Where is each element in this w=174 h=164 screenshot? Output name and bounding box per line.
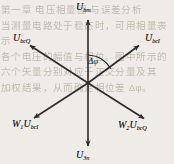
label-w1-u-bci: W1UbcI bbox=[12, 119, 38, 130]
vector-w1-u-bci bbox=[34, 83, 88, 118]
label-u-3n: U3n bbox=[76, 150, 89, 161]
label-u-bm-subscript: bm bbox=[83, 6, 90, 13]
label-delta-phi: Δφ bbox=[88, 57, 98, 66]
label-u-3n-subscript: 3n bbox=[83, 154, 89, 161]
vector-w2-u-bcq bbox=[88, 83, 144, 119]
label-u-bcq: UbcQ bbox=[13, 33, 30, 44]
label-u-bci: UbcI bbox=[145, 33, 160, 44]
label-w1-u-subscript: bcI bbox=[31, 123, 39, 130]
label-w1-u-symbol: U bbox=[23, 118, 30, 129]
vector-lines-svg bbox=[0, 0, 174, 164]
label-u-bm: Ubm bbox=[76, 2, 91, 13]
phasor-diagram-figure: 第一章 电压相量图 与误差分析 当测量电路处于稳态时，可用相量表示 各个电压的幅… bbox=[0, 0, 174, 164]
vector-u-bcq bbox=[30, 46, 88, 84]
label-w2-u-symbol: U bbox=[129, 119, 136, 130]
label-w2-u-bcq: W2UbcQ bbox=[118, 120, 147, 131]
label-w2-u-subscript: bcQ bbox=[137, 124, 147, 131]
label-u-bci-subscript: bcI bbox=[152, 37, 160, 44]
label-u-bcq-subscript: bcQ bbox=[20, 37, 30, 44]
